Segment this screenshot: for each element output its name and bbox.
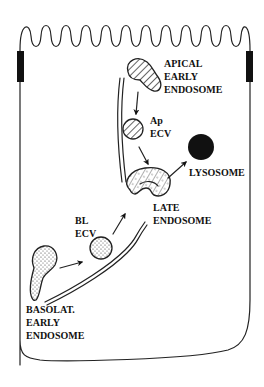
svg-text:EARLY: EARLY xyxy=(26,317,61,328)
svg-text:BL: BL xyxy=(75,215,89,226)
svg-text:ECV: ECV xyxy=(75,228,97,239)
svg-text:ENDOSOME: ENDOSOME xyxy=(26,330,85,341)
basolateral-early-endosome-shape xyxy=(30,246,57,300)
arrow-apical-to-ap-ecv xyxy=(136,92,138,114)
arrow-basolat-to-bl-ecv xyxy=(60,262,82,268)
label-late-endosome: LATE ENDOSOME xyxy=(153,202,212,226)
label-ap-ecv: Ap ECV xyxy=(150,115,172,139)
endocytosis-diagram: APICAL EARLY ENDOSOME Ap ECV LYSOSOME LA… xyxy=(0,0,264,387)
apical-early-endosome-shape xyxy=(128,59,161,91)
label-bl-ecv: BL ECV xyxy=(75,215,97,239)
svg-text:ENDOSOME: ENDOSOME xyxy=(153,215,212,226)
svg-text:Ap: Ap xyxy=(150,115,163,126)
label-lysosome: LYSOSOME xyxy=(189,167,245,178)
svg-text:BASOLAT.: BASOLAT. xyxy=(26,304,75,315)
arrow-late-to-lysosome xyxy=(168,162,186,178)
bl-ecv-shape xyxy=(90,237,112,259)
label-basolateral-early-endosome: BASOLAT. EARLY ENDOSOME xyxy=(26,304,85,341)
ap-ecv-shape xyxy=(123,119,143,139)
svg-text:EARLY: EARLY xyxy=(164,71,199,82)
arrow-ap-ecv-to-late xyxy=(139,147,148,164)
svg-text:APICAL: APICAL xyxy=(164,58,203,69)
tight-junction-left xyxy=(17,51,24,82)
svg-text:LATE: LATE xyxy=(153,202,180,213)
label-apical-early-endosome: APICAL EARLY ENDOSOME xyxy=(164,58,223,95)
svg-text:ECV: ECV xyxy=(150,128,172,139)
svg-text:ENDOSOME: ENDOSOME xyxy=(164,84,223,95)
arrow-bl-ecv-to-late xyxy=(113,214,125,234)
tight-junction-right xyxy=(246,51,253,82)
lysosome-shape xyxy=(188,134,214,160)
